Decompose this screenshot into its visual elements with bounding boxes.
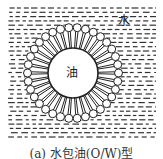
oil-label: 油	[66, 67, 78, 79]
figure-caption: (a) 水包油(O/W)型	[0, 148, 163, 159]
water-label: 水	[118, 15, 130, 27]
emulsion-diagram	[0, 0, 163, 159]
